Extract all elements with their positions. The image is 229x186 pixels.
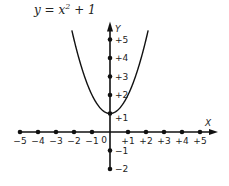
y-tick-dot (108, 93, 113, 98)
x-tick-label: −4 (31, 136, 45, 146)
parabola-chart: XY −5−4−3−2−1+1+2+3+4+50−2−1+1+2+3+4+5 (0, 0, 229, 186)
x-tick-dot (72, 130, 77, 135)
y-tick-label: +1 (115, 113, 128, 123)
y-tick-label: +3 (115, 72, 128, 82)
y-tick-dot (108, 37, 113, 42)
y-tick-label: +4 (115, 53, 129, 63)
x-tick-label: +5 (193, 136, 206, 146)
y-tick-label: +5 (115, 35, 128, 45)
y-tick-label: −2 (115, 164, 128, 174)
y-tick-label: −1 (115, 146, 128, 156)
x-tick-dot (198, 130, 203, 135)
y-tick-dot (108, 74, 113, 79)
y-axis-arrow (107, 22, 113, 32)
x-tick-label: −1 (85, 136, 98, 146)
x-tick-label: +2 (139, 136, 152, 146)
x-tick-dot (144, 130, 149, 135)
x-tick-dot (90, 130, 95, 135)
x-axis-arrow (209, 129, 218, 135)
y-tick-label: +2 (115, 90, 128, 100)
x-tick-label: +3 (157, 136, 170, 146)
x-tick-label: +4 (175, 136, 189, 146)
x-tick-dot (36, 130, 41, 135)
y-axis-label: Y (115, 24, 122, 34)
x-tick-dot (126, 130, 131, 135)
x-tick-dot (180, 130, 185, 135)
x-tick-dot (162, 130, 167, 135)
y-tick-dot (108, 148, 113, 153)
y-tick-dot (108, 111, 113, 116)
x-tick-label: −2 (67, 136, 80, 146)
x-tick-label: −5 (13, 136, 26, 146)
origin-label: 0 (101, 135, 107, 145)
y-tick-dot (108, 167, 113, 172)
x-tick-label: −3 (49, 136, 62, 146)
x-tick-dot (54, 130, 59, 135)
y-tick-dot (108, 56, 113, 61)
x-tick-label: +1 (121, 136, 134, 146)
x-tick-dot (18, 130, 23, 135)
x-axis-label: X (204, 118, 212, 128)
